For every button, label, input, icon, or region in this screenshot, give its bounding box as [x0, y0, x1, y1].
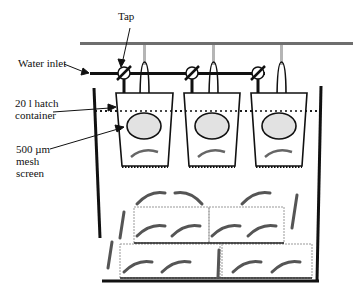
air-pipe	[80, 42, 353, 45]
tank-shrimp	[108, 192, 300, 277]
mesh-label-line1: 500 µm	[16, 143, 50, 155]
mesh-label-line3: screen	[16, 167, 44, 179]
annotation-arrows	[50, 28, 130, 149]
tap-3	[251, 66, 265, 93]
taps	[117, 66, 265, 93]
tap-2	[185, 66, 199, 93]
diagram-graphic	[0, 0, 359, 294]
mesh-screens	[127, 113, 296, 139]
hatch-container-label-line1: 20 l hatch	[15, 97, 58, 109]
mesh-label-line2: mesh	[16, 155, 39, 167]
tap-label: Tap	[118, 10, 134, 22]
water-inlet-pipe	[90, 72, 265, 75]
hatch-container-label-line2: container	[15, 109, 56, 121]
hatchery-diagram: Tap Water inlet 20 l hatch container 500…	[0, 0, 359, 294]
tap-1	[117, 66, 131, 93]
water-inlet-label: Water inlet	[18, 57, 66, 69]
